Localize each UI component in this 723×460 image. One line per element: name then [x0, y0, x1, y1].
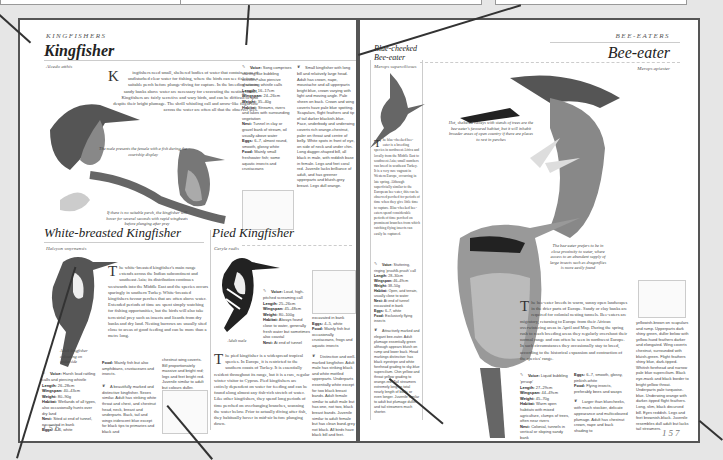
bee-eater-facts-cont: Eggs: 6–7, smooth, glossy, pinkish-white…	[574, 372, 628, 433]
kingfisher-plumage: ❦Small kingfisher with long bill and rel…	[297, 64, 355, 188]
drop-cap: T	[214, 353, 223, 366]
courtship-caption: The male presents the female with a fish…	[98, 146, 188, 157]
title-rule	[44, 60, 358, 61]
kingfisher-facts: ✎Voice: Song comprises starting-like bub…	[242, 64, 292, 172]
range-map	[638, 280, 686, 318]
feather-icon: ❦	[374, 328, 382, 335]
drop-cap: T	[520, 300, 529, 313]
range-map	[242, 190, 294, 230]
title-rule	[44, 242, 204, 243]
right-page: Bee-eaters Bee-eater Merops apiaster Blu…	[358, 18, 700, 443]
page-number: 156	[42, 423, 62, 433]
voice-icon: ✎	[374, 262, 382, 269]
fact-food: Food: Mainly small freshwater fish; some…	[242, 149, 292, 171]
feather-icon: ❦	[102, 383, 110, 390]
left-page: Kingfishers Kingfisher Alcedo atthis Kin…	[18, 18, 358, 443]
bee-eater-facts: ✎Voice: Liquid bubbling 'prruup' Length:…	[520, 372, 570, 441]
fact-eggs: Eggs: 6–7, almost round, smooth, glossy …	[242, 138, 292, 149]
kingfisher-illustration	[30, 90, 230, 230]
column-divider	[210, 230, 211, 430]
divider-rule	[242, 245, 352, 246]
voice-icon: ✎	[242, 64, 250, 71]
species-title: Kingfisher	[44, 42, 114, 60]
blue-cheeked-bee-eater-illustration	[370, 68, 425, 148]
latin-name: Ceryle rudis	[214, 246, 239, 251]
species-title-pied: Pied Kingfisher	[212, 225, 294, 241]
drop-cap: T	[108, 265, 117, 278]
bird-caption: Adult kingfisher colouring on underside	[60, 348, 90, 365]
top-frame-left	[0, 0, 182, 5]
feeding-caption: The bee-eater prefers to be in close pro…	[548, 243, 608, 271]
species-description: The white-breasted kingfisher's main ran…	[108, 265, 208, 339]
species-description: The blue-cheeked bee-eater is a breeding…	[374, 138, 420, 237]
feather-icon: ❦	[312, 353, 320, 360]
voice-icon: ✎	[520, 372, 528, 379]
species-title: Bee-eater	[608, 44, 670, 62]
pied-facts: ✎Voice: Loud, high-pitched screaming cal…	[263, 288, 313, 345]
bird-caption: Adult male	[222, 338, 252, 344]
header-rule	[550, 42, 680, 43]
voice-icon: ✎	[263, 288, 271, 295]
latin-name: Merops apiaster	[637, 66, 670, 71]
fact-nest: Nest: Tunnel in clay or gravel bank of s…	[242, 121, 292, 138]
title-rule	[420, 62, 680, 63]
page-number: 157	[662, 428, 682, 438]
species-description: The bee-eater breeds in warm, sunny open…	[520, 300, 628, 362]
pied-facts-cont: excavated in bank Eggs: 4–5, white Food:…	[312, 315, 356, 438]
white-breasted-plumage-cont: chestnut wing coverts. Bill proportionat…	[162, 357, 206, 391]
species-title-white-breasted: White-breasted Kingfisher	[44, 225, 181, 241]
white-breasted-food: Food: Mainly fish but also amphibians, c…	[102, 360, 157, 435]
habitat-caption: Hot, sheltered valleys with stands of tr…	[448, 120, 534, 142]
feather-icon: ❦	[297, 64, 305, 71]
section-header: Bee-eaters	[616, 32, 670, 40]
drop-cap: T	[374, 138, 381, 148]
drop-cap: K	[108, 70, 119, 83]
species-description: The pied kingfisher is a widespread trop…	[214, 353, 310, 427]
latin-name: Halcyon smyrnensis	[46, 246, 86, 251]
fact-habitat: Habitat: Streams, rivers and lakes with …	[242, 105, 292, 122]
fact-voice: ✎Voice: Song comprises starting-like bub…	[242, 64, 292, 88]
section-header: Kingfishers	[46, 32, 106, 40]
top-frame-right	[495, 0, 687, 5]
feather-icon: ❦	[574, 398, 582, 405]
range-map	[312, 270, 356, 314]
connector-line	[699, 420, 723, 440]
top-frame-center	[180, 0, 482, 5]
latin-name: Alcedo atthis	[46, 64, 72, 69]
bee-eater-plumage-cont: yellowish-brown on scapulars and rump. U…	[636, 320, 690, 432]
blue-cheeked-facts: ✎Voice: Stuttering, ringing 'pruuhlk-pru…	[374, 262, 420, 415]
